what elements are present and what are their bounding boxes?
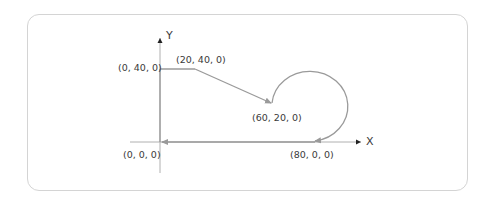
toolpath-diagram: [0, 0, 492, 205]
x-axis-label: X: [366, 136, 374, 147]
point-label-0-40-0: (0, 40, 0): [118, 63, 162, 73]
y-axis-label: Y: [166, 30, 173, 41]
point-label-0-0-0: (0, 0, 0): [123, 150, 161, 160]
point-label-80-0-0: (80, 0, 0): [290, 150, 334, 160]
path-arc-segment: [272, 71, 348, 141]
path-linear-segment: [195, 69, 271, 103]
point-label-20-40-0: (20, 40, 0): [176, 55, 226, 65]
point-label-60-20-0: (60, 20, 0): [252, 113, 302, 123]
